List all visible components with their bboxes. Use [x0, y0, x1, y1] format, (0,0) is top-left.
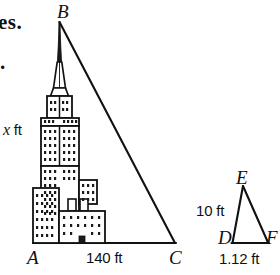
triangle-DEF-side-DE [233, 186, 244, 243]
skyscraper-illustration [33, 22, 105, 243]
vertex-label-C: C [169, 248, 182, 267]
page-text-fragment: es. [0, 12, 22, 33]
triangle-DEF-shape [232, 186, 270, 243]
page-bullet-marker: . [0, 52, 5, 73]
dimension-label-base-112ft: 1.12 ft [219, 251, 259, 266]
vertex-label-E: E [236, 168, 248, 187]
building-antenna-spire [57, 22, 61, 62]
figure-vector-layer [0, 0, 280, 275]
dimension-label-height-10ft: 10 ft [196, 203, 224, 218]
vertex-label-A: A [27, 248, 39, 267]
building-setback-ledge-upper [41, 118, 79, 126]
geometry-figure: es. . B C A x ft 140 ft D E F 10 ft 1.12… [0, 0, 280, 275]
triangle-DEF-side-EF [243, 186, 268, 243]
vertex-label-D: D [218, 228, 232, 247]
dimension-label-height-x: x ft [3, 122, 22, 138]
building-observation-collar [51, 88, 69, 96]
building-entrance-door [79, 236, 85, 243]
building-turret-block-a [68, 199, 76, 211]
vertex-label-B: B [57, 2, 69, 21]
vertex-label-F: F [266, 228, 278, 247]
dimension-label-base-140ft: 140 ft [86, 250, 122, 265]
